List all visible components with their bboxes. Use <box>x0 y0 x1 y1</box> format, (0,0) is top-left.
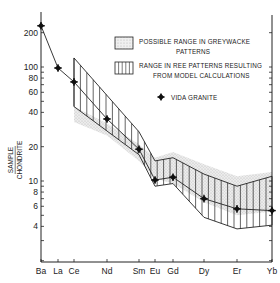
legend-label-greywacke-1: POSSIBLE RANGE IN GREYWACKE <box>139 38 250 45</box>
y-tick-label: 40 <box>29 107 39 117</box>
x-tick-label: Gd <box>167 266 179 276</box>
x-tick-label: Eu <box>150 266 161 276</box>
x-tick-label: Ba <box>36 266 47 276</box>
y-tick-label: 8 <box>33 187 38 197</box>
legend: POSSIBLE RANGE IN GREYWACKE PATTERNS RAN… <box>115 37 262 101</box>
axes: 2001008060402010864BaLaCeNdSmEuGdDyErYb <box>24 12 278 276</box>
x-tick-label: Yb <box>267 266 278 276</box>
data-point-marker <box>37 22 45 30</box>
y-label-denominator: CHONDRITE <box>16 140 23 179</box>
y-tick-label: 20 <box>29 142 39 152</box>
x-tick-label: Ce <box>69 266 80 276</box>
x-tick-label: Dy <box>199 266 210 276</box>
y-tick-label: 10 <box>29 176 39 186</box>
x-tick-label: Sm <box>133 266 146 276</box>
y-tick-label: 80 <box>29 73 39 83</box>
legend-label-model-1: RANGE IN REE PATTERNS RESULTING <box>139 62 262 69</box>
legend-label-granite: VIDA GRANITE <box>171 94 218 101</box>
y-tick-label: 60 <box>29 87 39 97</box>
y-tick-label: 6 <box>33 201 38 211</box>
legend-label-greywacke-2: PATTERNS <box>176 48 210 55</box>
y-tick-label: 4 <box>33 221 38 231</box>
ree-pattern-chart: 2001008060402010864BaLaCeNdSmEuGdDyErYb … <box>0 0 280 283</box>
legend-swatch-model <box>115 62 133 74</box>
x-tick-label: La <box>53 266 63 276</box>
y-label-numerator: SAMPLE <box>7 146 14 173</box>
range-bands <box>74 58 272 229</box>
x-tick-label: Er <box>233 266 242 276</box>
y-tick-label: 100 <box>24 62 38 72</box>
legend-label-model-2: FROM MODEL CALCULATIONS <box>153 72 250 79</box>
legend-swatch-greywacke <box>115 37 133 49</box>
y-axis-label: SAMPLE CHONDRITE <box>7 140 23 179</box>
y-tick-label: 200 <box>24 28 38 38</box>
x-tick-label: Nd <box>102 266 113 276</box>
legend-marker-granite-icon <box>157 93 164 100</box>
greywacke-range-band <box>74 107 272 216</box>
